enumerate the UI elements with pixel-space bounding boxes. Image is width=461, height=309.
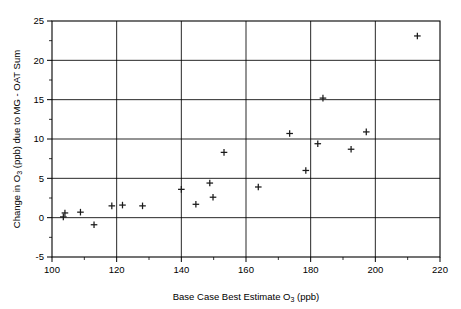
x-tick-label: 100 — [44, 264, 60, 275]
y-tick-label: 5 — [39, 173, 44, 184]
x-axis-title: Base Case Best Estimate O3 (ppb) — [173, 291, 319, 303]
data-point-marker — [303, 167, 310, 174]
axis-ticks — [47, 21, 440, 262]
chart-figure: 100120140160180200220 -50510152025 Base … — [0, 0, 461, 309]
data-point-marker — [210, 194, 217, 201]
data-point-marker — [320, 95, 327, 102]
data-point-marker — [414, 33, 421, 40]
data-point-marker — [363, 129, 370, 136]
y-tick-label: 25 — [33, 15, 44, 26]
data-point-marker — [60, 214, 67, 221]
data-point-marker — [193, 201, 200, 208]
gridlines — [52, 21, 440, 257]
y-tick-label: -5 — [36, 251, 44, 262]
y-tick-label: 20 — [33, 55, 44, 66]
data-point-marker — [348, 146, 355, 153]
data-point-marker — [314, 140, 321, 147]
y-tick-labels: -50510152025 — [33, 15, 44, 262]
data-point-marker — [206, 180, 213, 187]
x-tick-label: 120 — [109, 264, 125, 275]
data-point-marker — [62, 210, 69, 217]
data-point-marker — [77, 209, 84, 216]
x-tick-label: 180 — [303, 264, 319, 275]
data-points — [60, 33, 421, 228]
data-point-marker — [109, 203, 116, 210]
data-point-marker — [286, 130, 293, 137]
x-tick-label: 160 — [238, 264, 254, 275]
y-tick-label: 15 — [33, 94, 44, 105]
y-tick-label: 0 — [39, 212, 44, 223]
scatter-plot-svg: 100120140160180200220 -50510152025 Base … — [0, 0, 461, 309]
x-tick-labels: 100120140160180200220 — [44, 264, 448, 275]
data-point-marker — [91, 221, 98, 228]
x-tick-label: 200 — [367, 264, 383, 275]
data-point-marker — [221, 149, 228, 156]
data-point-marker — [255, 184, 262, 191]
x-tick-label: 220 — [432, 264, 448, 275]
y-tick-label: 10 — [33, 133, 44, 144]
x-tick-label: 140 — [173, 264, 189, 275]
data-point-marker — [139, 203, 146, 210]
data-point-marker — [178, 186, 185, 193]
data-point-marker — [119, 202, 126, 209]
y-axis-title: Change in O3 (ppb) due to MG - OAT Sum — [11, 50, 23, 228]
